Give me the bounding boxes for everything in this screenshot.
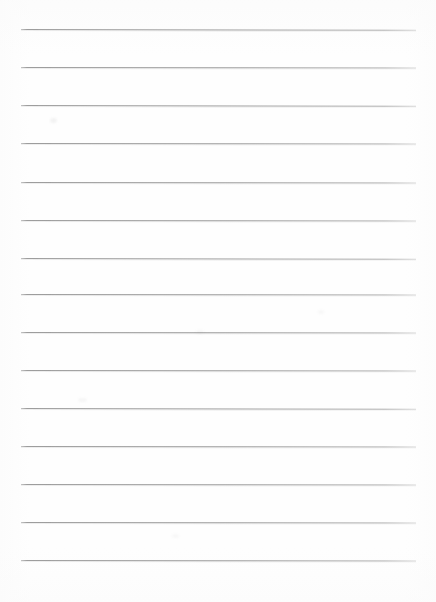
paper-text-content <box>0 0 436 602</box>
ruled-paper-sheet <box>0 0 436 602</box>
